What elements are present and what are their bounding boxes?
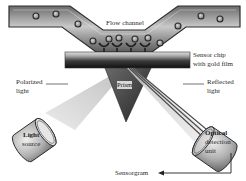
flow-channel-label: Flow channel	[106, 19, 144, 27]
polarized-light-label-line1: Polarized	[16, 78, 42, 86]
reflected-light-label-line1: Reflected	[207, 78, 234, 86]
sensorgram-label: Sensorgram	[115, 169, 148, 177]
prism	[105, 68, 151, 122]
polarized-light-label-line2: light	[16, 87, 29, 95]
detector-label-line1: Optical	[205, 129, 227, 137]
detector-label-line2: detection	[205, 138, 231, 146]
prism-label: Prism	[117, 81, 132, 89]
detector-label-line3: unit	[205, 147, 216, 155]
sensor-chip	[65, 52, 190, 68]
light-source-label-line1: Light	[23, 131, 39, 139]
flow-channel	[9, 6, 240, 52]
reflected-light-label-line2: light	[207, 87, 220, 95]
light-source-label-line2: source	[22, 140, 40, 148]
sensor-chip-label-line2: with gold film	[193, 60, 233, 68]
sensor-chip-label-line1: Sensor chip	[193, 51, 226, 59]
